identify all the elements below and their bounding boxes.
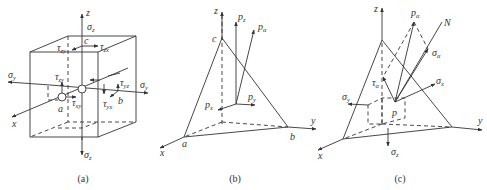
element-box	[368, 98, 405, 124]
sigma-alpha-arrow	[395, 49, 428, 102]
y-label: y	[477, 115, 483, 126]
normal-label: N	[443, 17, 452, 28]
sigma-y-label: σy	[342, 91, 350, 103]
x-label: x	[317, 150, 323, 161]
panel-c: z pα N σα τα σx σy p y σz x (c)	[317, 3, 483, 185]
sigma-y-right-label: σy	[140, 79, 148, 91]
p-alpha-label: pα	[410, 7, 420, 19]
point-a-circle	[58, 93, 66, 101]
z-label: z	[85, 7, 90, 18]
p-x-arrow	[218, 104, 236, 110]
sigma-z-bottom-label: σz	[84, 149, 92, 161]
p-y-arrow	[236, 104, 255, 105]
dashed-projection-2	[383, 22, 414, 77]
tau-zy-label: τzy	[55, 71, 64, 83]
sigma-z-label: σz	[391, 146, 399, 158]
x-label: x	[11, 118, 17, 129]
sigma-y-left-arrow	[8, 82, 50, 85]
point-b-label: b	[118, 95, 123, 106]
y-axis-arrow	[288, 127, 316, 129]
tau-xy-label: τxy	[72, 97, 81, 109]
p-alpha-label: pα	[257, 21, 267, 33]
tau-zx-label: τzx	[100, 41, 109, 53]
p-alpha-arrow	[395, 22, 414, 102]
sigma-x-label: σx	[436, 75, 444, 87]
y-label: y	[310, 115, 316, 126]
inner-dashed	[58, 122, 98, 128]
tau-alpha-label: τα	[372, 77, 380, 89]
sigma-y-right-arrow	[50, 85, 148, 93]
caption-a: (a)	[77, 173, 88, 185]
point-a-label: a	[182, 138, 187, 149]
caption-b: (b)	[229, 173, 241, 185]
tau-zy-top-label: τzy	[57, 42, 66, 54]
x-label: x	[159, 147, 165, 158]
point-c-label: c	[212, 33, 217, 44]
point-p-label: p	[391, 107, 397, 118]
point-b-label: b	[290, 131, 295, 142]
tau-yx-label: τyx	[103, 98, 112, 110]
dashed-projection-1	[414, 22, 428, 49]
x-axis-arrow	[318, 139, 343, 150]
y-axis-arrow	[452, 127, 482, 130]
z-label: z	[213, 5, 218, 16]
tau-yx-arrow	[110, 91, 118, 97]
point-a-label: a	[58, 103, 63, 114]
caption-c: (c)	[394, 173, 405, 185]
p-z-label: pz	[237, 11, 246, 23]
y-axis-dashed	[382, 124, 452, 127]
panel-a: z σz c τzy τzx σy τzy τxy a τyz σy τyx b…	[8, 7, 148, 185]
cube-top-face	[30, 36, 136, 52]
tau-yz-label: τyz	[120, 77, 129, 89]
point-c-label: c	[84, 35, 89, 46]
p-y-label: py	[247, 91, 256, 103]
z-label: z	[373, 3, 378, 14]
tau-zx-arrow-left	[72, 46, 82, 50]
panel-b: z pz pα c py px y a b x (b)	[159, 5, 316, 185]
sigma-y-arrow	[348, 104, 368, 105]
p-x-label: px	[204, 99, 213, 111]
sigma-y-left-label: σy	[8, 69, 16, 81]
cube-hidden-edge	[30, 122, 68, 137]
point-center-circle	[78, 85, 86, 93]
sigma-alpha-label: σα	[432, 47, 441, 59]
sigma-z-top-label: σz	[87, 21, 95, 33]
y-axis-dashed	[222, 122, 288, 127]
stress-diagram: z σz c τzy τzx σy τzy τxy a τyz σy τyx b…	[0, 0, 487, 190]
